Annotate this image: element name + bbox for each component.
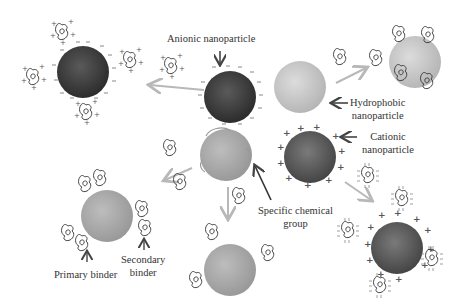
svg-text:+: + [424, 225, 432, 235]
svg-text:+: + [338, 146, 346, 156]
anionic-bound-particle [21, 18, 185, 127]
svg-text:+: + [325, 175, 333, 185]
svg-text:+: + [297, 123, 305, 133]
svg-text:+: + [277, 142, 285, 152]
label-specific-chemical-group: Specific chemical group [258, 204, 333, 230]
svg-text:+: + [367, 222, 375, 232]
svg-text:+: + [364, 239, 372, 249]
label-secondary-binder: Secondary binder [121, 253, 165, 279]
label-anionic-nanoparticle: Anionic nanoparticle [167, 32, 255, 45]
specific-group-nanoparticle [164, 128, 252, 204]
svg-text:+: + [337, 162, 345, 172]
svg-text:+: + [285, 173, 293, 183]
arrow-anionic-to-bound [150, 85, 204, 90]
svg-text:+: + [313, 122, 321, 132]
label-secondary-line1: Secondary [121, 253, 165, 266]
label-specific-line1: Specific chemical [258, 204, 333, 217]
svg-text:+: + [394, 208, 402, 218]
nanoparticle-binding-diagram: + + + + + [0, 0, 463, 307]
specific-bound-left-particle [62, 170, 151, 251]
label-secondary-line2: binder [121, 266, 165, 279]
hydrophobic-bound-particle [370, 26, 441, 89]
svg-text:+: + [304, 180, 312, 190]
svg-text:+: + [395, 274, 403, 284]
svg-text:+: + [332, 131, 340, 141]
label-hydrophobic-line2: nanoparticle [350, 109, 405, 122]
svg-text:+: + [277, 158, 285, 168]
label-hydrophobic-line1: Hydrophobic [350, 96, 405, 109]
label-cationic-line1: Cationic [362, 130, 414, 143]
arrow-specific-group-label [255, 166, 271, 200]
svg-text:+: + [378, 210, 386, 220]
svg-text:+: + [427, 244, 435, 254]
label-hydrophobic-nanoparticle: Hydrophobic nanoparticle [350, 96, 405, 122]
svg-text:+: + [283, 128, 291, 138]
specific-bound-bottom-particle [190, 224, 274, 297]
svg-text:+: + [421, 260, 429, 270]
arrow-cationic-to-bound [345, 182, 371, 200]
arrow-hydrophobic-to-bound [336, 68, 366, 83]
anionic-nanoparticle [198, 66, 263, 124]
svg-text:+: + [366, 255, 374, 265]
label-cationic-nanoparticle: Cationic nanoparticle [362, 130, 414, 156]
label-cationic-line2: nanoparticle [362, 143, 414, 156]
label-primary-binder: Primary binder [54, 268, 117, 281]
cationic-nanoparticle: +++ +++ +++ ++ [277, 122, 346, 190]
cationic-bound-particle: +++ +++ +++ ++ [337, 163, 443, 298]
label-specific-line2: group [258, 217, 333, 230]
svg-text:+: + [413, 214, 421, 224]
